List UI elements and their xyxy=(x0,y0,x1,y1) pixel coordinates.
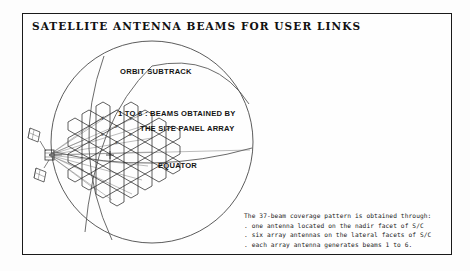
label-beams-legend-line1: 1 TO 6 : BEAMS OBTAINED BY xyxy=(118,109,236,118)
beam-fan-lines xyxy=(49,108,250,200)
spacecraft-icon xyxy=(28,128,62,182)
label-equator: EQUATOR xyxy=(158,161,197,170)
caption-line: . six array antennas on the lateral face… xyxy=(244,230,431,240)
orbit-subtrack-curve xyxy=(85,63,249,232)
figure-page: SATELLITE ANTENNA BEAMS FOR USER LINKS xyxy=(0,0,470,271)
caption-line: The 37-beam coverage pattern is obtained… xyxy=(244,211,431,221)
caption-line: . each array antenna generates beams 1 t… xyxy=(244,240,431,250)
caption-line: . one antenna located on the nadir facet… xyxy=(244,221,431,231)
label-orbit-subtrack: ORBIT SUBTRACK xyxy=(120,67,192,76)
label-beams-legend-line2: THE SITE PANEL ARRAY xyxy=(140,124,234,133)
caption-block: The 37-beam coverage pattern is obtained… xyxy=(244,211,431,249)
